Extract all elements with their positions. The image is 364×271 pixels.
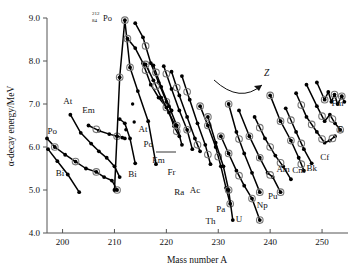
data-point (250, 197, 254, 201)
data-point (235, 169, 239, 173)
series-label-E: E (337, 124, 343, 134)
data-point (284, 106, 288, 110)
data-point (110, 179, 114, 183)
data-point (170, 70, 174, 74)
y-tick-label: 7.0 (29, 99, 41, 109)
data-point (159, 96, 163, 100)
series-label-Em-light: Em (82, 105, 95, 115)
data-point (289, 139, 293, 143)
data-point (188, 98, 192, 102)
data-point (294, 130, 298, 134)
z-trend-arrow-label: Z (264, 68, 270, 78)
data-point (235, 130, 239, 134)
data-point (170, 87, 174, 91)
series-label-U: U (236, 214, 243, 224)
alpha-decay-chart-figure: 4.05.06.07.08.09.0 200210220230240250 Bi… (0, 0, 364, 271)
series-label-Fr: Fr (168, 167, 176, 177)
data-point (94, 170, 98, 174)
data-point (66, 173, 70, 177)
stray-data-point (132, 120, 135, 123)
data-point (159, 85, 163, 89)
data-point (151, 78, 155, 82)
series-label-At: At (63, 96, 72, 106)
data-point (74, 160, 78, 164)
data-point (133, 21, 137, 25)
data-point (333, 93, 337, 97)
data-point (206, 115, 210, 119)
peak-atomic-number-subscript: 84 (92, 18, 98, 23)
data-point (315, 81, 319, 85)
series-label-Bk: Bk (306, 163, 317, 173)
series-label-Th: Th (205, 216, 215, 226)
data-point (227, 152, 231, 156)
series-line (70, 115, 119, 177)
series-Em-light (87, 124, 127, 141)
series-line (239, 111, 281, 193)
data-point (89, 142, 93, 146)
data-point (87, 124, 91, 128)
stray-data-point (124, 128, 127, 131)
data-point (242, 152, 246, 156)
data-point (177, 94, 181, 98)
data-point (250, 171, 254, 175)
series-label-Cf: Cf (320, 152, 329, 162)
data-point (323, 98, 327, 102)
series-Cm (267, 92, 306, 172)
data-point (258, 156, 262, 160)
peak-mass-number-superscript: 212 (92, 11, 100, 16)
data-point (206, 124, 210, 128)
x-tick-group: 200210220230240250 (56, 229, 329, 247)
data-point (198, 149, 202, 153)
data-point (136, 89, 140, 93)
data-point (118, 117, 122, 121)
data-point (222, 164, 226, 168)
data-point (185, 128, 189, 132)
peak-element-symbol: Po (103, 13, 112, 23)
data-point (214, 141, 218, 145)
x-axis-title: Mass number A (167, 255, 227, 265)
data-point (203, 143, 207, 147)
data-point (133, 46, 137, 50)
data-point (113, 188, 117, 192)
y-tick-label: 4.0 (29, 228, 41, 238)
data-point (227, 188, 231, 192)
data-point (128, 137, 132, 141)
data-point (247, 134, 251, 138)
data-point (219, 134, 223, 138)
data-point (77, 190, 81, 194)
peak-callout-group: 212 84 Po (92, 11, 112, 23)
data-point (297, 156, 301, 160)
data-point (315, 130, 319, 134)
data-point (185, 115, 189, 119)
data-point (231, 218, 235, 222)
y-tick-group: 4.05.06.07.08.09.0 (29, 13, 47, 238)
series-Po-212-peak (113, 17, 158, 192)
data-point (198, 104, 202, 108)
series-label-Po-light: Po (47, 126, 57, 136)
stray-data-point (131, 102, 134, 105)
series-label-Pu: Pu (268, 191, 278, 201)
data-point (196, 121, 200, 125)
y-tick-label: 8.0 (29, 56, 41, 66)
series-label-At-heavy: At (139, 124, 148, 134)
data-point (294, 91, 298, 95)
data-point (63, 153, 67, 157)
data-point (149, 83, 153, 87)
data-point (268, 94, 272, 98)
data-point (97, 149, 101, 153)
data-point (237, 109, 241, 113)
data-point (118, 175, 122, 179)
x-tick-label: 220 (160, 237, 174, 247)
data-point (167, 104, 171, 108)
data-point (151, 63, 155, 67)
x-tick-label: 210 (108, 237, 122, 247)
y-tick-label: 6.0 (29, 142, 41, 152)
data-point (323, 119, 327, 123)
series-label-Po-heavy: Po (143, 139, 153, 149)
data-point (305, 115, 309, 119)
series-Bi-heavy (118, 117, 137, 165)
data-point (46, 147, 50, 151)
data-point (123, 121, 127, 125)
data-point (273, 154, 277, 158)
series-label-Np: Np (257, 200, 268, 210)
